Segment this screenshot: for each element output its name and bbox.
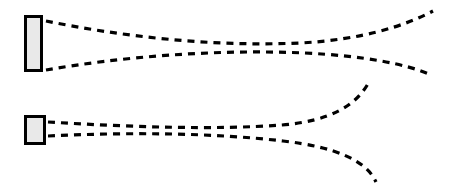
ray-upper-outer — [46, 11, 433, 44]
shape-group — [26, 17, 45, 144]
ray-lower-outer — [48, 134, 376, 182]
ray-group — [46, 11, 433, 182]
ray-upper-inner — [46, 52, 429, 74]
ray-lower-upper — [48, 82, 369, 128]
tall-rectangle — [26, 17, 42, 71]
ray-diagram-svg — [0, 0, 451, 192]
small-square — [26, 117, 45, 144]
diagram-canvas: Dashed ray trajectory diagram — [0, 0, 451, 192]
